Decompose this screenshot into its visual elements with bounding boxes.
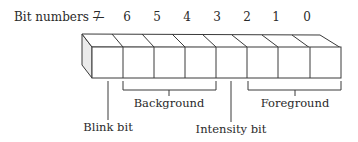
- bit-number-2: 2: [243, 10, 251, 24]
- foreground-label: Foreground: [261, 96, 330, 110]
- bit-number-1: 1: [272, 10, 280, 24]
- bit-number-3: 3: [213, 10, 221, 24]
- bit-number-4: 4: [183, 10, 191, 24]
- bit-numbers-label: Bit numbers —: [14, 10, 105, 24]
- attribute-byte-diagram: Bit numbers — 7 6 5 4 3 2 1 0: [0, 0, 358, 142]
- foreground-callout: Foreground: [248, 81, 341, 110]
- foreground-bracket: [248, 81, 341, 90]
- bit-number-0: 0: [303, 10, 311, 24]
- background-bracket: [123, 81, 216, 90]
- blink-bit-label: Blink bit: [83, 120, 133, 134]
- bit-number-row: Bit numbers — 7 6 5 4 3 2 1 0: [14, 10, 311, 24]
- bit-number-6: 6: [123, 10, 131, 24]
- background-callout: Background: [123, 81, 216, 110]
- blink-bit-callout: Blink bit: [83, 81, 133, 134]
- bit-cells-box: [82, 34, 341, 78]
- bit-number-7: 7: [93, 10, 101, 24]
- intensity-bit-callout: Intensity bit: [196, 81, 267, 136]
- background-label: Background: [134, 96, 205, 110]
- box-top-face: [82, 34, 341, 48]
- bit-number-5: 5: [153, 10, 161, 24]
- intensity-bit-label: Intensity bit: [196, 122, 267, 136]
